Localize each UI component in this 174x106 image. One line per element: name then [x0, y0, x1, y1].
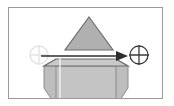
prism-top-face[interactable]	[44, 59, 128, 66]
geometry-diagram[interactable]	[0, 0, 174, 106]
screenshot-canvas: Gray triangle above a gray hexagonal pri…	[0, 0, 174, 106]
